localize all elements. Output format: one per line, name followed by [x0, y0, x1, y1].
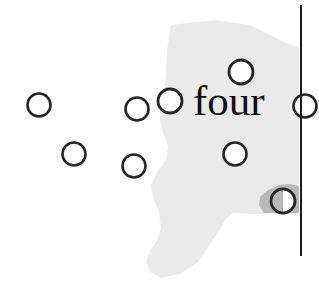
scene-vector-graphics — [0, 0, 319, 302]
word-label-four: four — [193, 79, 265, 122]
image-canvas: four — [0, 0, 319, 302]
